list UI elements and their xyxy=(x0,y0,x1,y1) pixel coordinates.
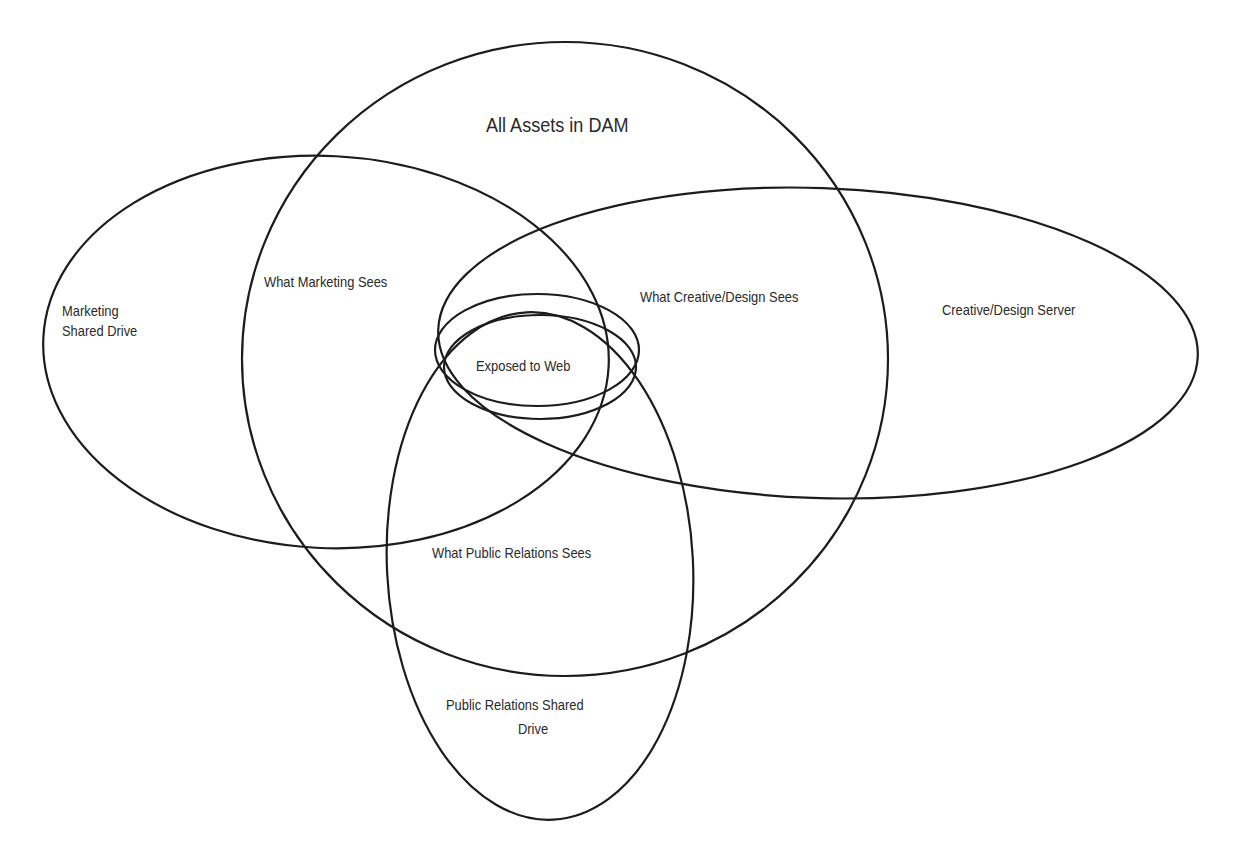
label-pr-shared-drive-line1: Public Relations Shared xyxy=(446,695,584,715)
label-what-marketing-sees: What Marketing Sees xyxy=(264,272,387,292)
label-what-creative-design-sees: What Creative/Design Sees xyxy=(640,287,798,307)
label-creative-design-server: Creative/Design Server xyxy=(942,300,1075,320)
label-marketing-shared-drive-line1: Marketing xyxy=(62,301,119,321)
label-exposed-to-web: Exposed to Web xyxy=(476,356,570,376)
label-what-public-relations-sees: What Public Relations Sees xyxy=(432,543,591,563)
public-relations-shared-drive-ellipse xyxy=(374,304,706,827)
creative-design-server-ellipse xyxy=(433,175,1203,511)
label-pr-shared-drive-line2: Drive xyxy=(518,719,548,739)
label-all-assets-in-dam: All Assets in DAM xyxy=(486,112,629,138)
label-marketing-shared-drive-line2: Shared Drive xyxy=(62,321,137,341)
marketing-shared-drive-ellipse xyxy=(33,141,619,562)
